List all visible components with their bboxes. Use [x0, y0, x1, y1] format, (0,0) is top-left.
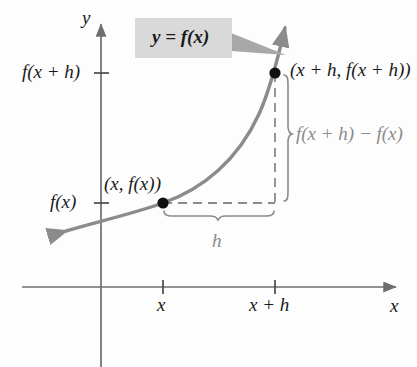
plotted-points [157, 67, 280, 208]
point-label-x-plus-h: (x + h, f(x + h)) [290, 60, 411, 79]
figure-canvas [0, 0, 417, 367]
callout-tail [231, 33, 286, 55]
brace-horizontal [164, 211, 274, 220]
x-tick-label-x-plus-h: x + h [249, 295, 289, 314]
y-axis-label: y [82, 8, 90, 27]
point-x-marker [157, 197, 168, 208]
brace-label-h: h [212, 231, 222, 250]
y-tick-label-fxh: f(x + h) [22, 62, 80, 81]
x-tick-label-x: x [157, 295, 165, 314]
callout-label: y = f(x) [152, 27, 209, 46]
brace-vertical [284, 75, 292, 201]
y-tick-label-fx: f(x) [50, 192, 76, 211]
brace-label-delta-y: f(x + h) − f(x) [296, 124, 403, 143]
x-axis-label: x [390, 296, 398, 315]
difference-quotient-figure: y x f(x + h) f(x) x x + h (x, f(x)) (x +… [0, 0, 417, 367]
point-x-plus-h-marker [269, 67, 280, 78]
dashed-lines-group [163, 73, 275, 203]
point-label-x: (x, f(x)) [104, 174, 161, 193]
function-curve-group [66, 28, 285, 231]
function-curve [66, 28, 285, 231]
